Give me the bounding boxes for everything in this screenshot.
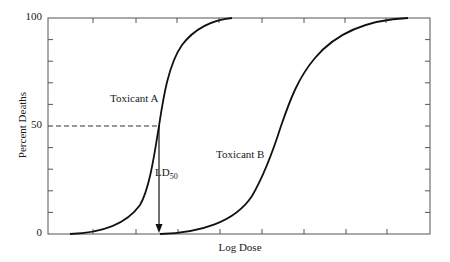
ld50-label: LD50 <box>155 166 178 181</box>
y-axis-label: Percent Deaths <box>16 75 28 175</box>
x-ticks-bottom <box>93 229 387 234</box>
toxicant-b-curve <box>160 18 408 234</box>
dose-response-chart <box>0 0 450 262</box>
ld50-arrow-head-icon <box>156 224 163 233</box>
ld50-label-subscript: 50 <box>170 172 178 181</box>
toxicant-a-curve <box>70 18 232 234</box>
y-ticks-right <box>425 40 430 213</box>
x-ticks-top <box>93 18 386 23</box>
y-tick-0: 0 <box>12 226 42 238</box>
y-tick-100: 100 <box>12 10 42 22</box>
toxicant-a-label: Toxicant A <box>110 92 158 104</box>
x-axis-label: Log Dose <box>200 241 280 253</box>
toxicant-b-label: Toxicant B <box>216 148 264 160</box>
ld50-label-main: LD <box>155 166 170 178</box>
